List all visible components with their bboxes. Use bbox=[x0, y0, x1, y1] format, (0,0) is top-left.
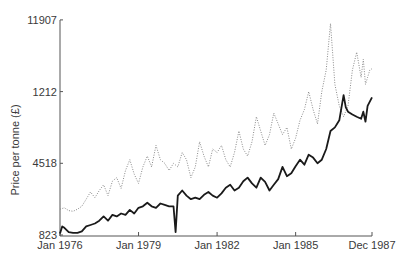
solid-price-line bbox=[60, 95, 372, 233]
y-axis-label: Price per tonne (£) bbox=[9, 104, 21, 195]
dotted-price-line bbox=[60, 24, 372, 212]
line-chart: 8234518121211907 Jan 1976Jan 1979Jan 198… bbox=[0, 0, 402, 261]
x-tick-label: Jan 1985 bbox=[273, 239, 318, 251]
x-tick-label: Jan 1982 bbox=[194, 239, 239, 251]
y-tick-label: 1212 bbox=[33, 86, 57, 98]
x-tick-label: Dec 1987 bbox=[348, 239, 395, 251]
series-group bbox=[60, 24, 372, 234]
x-tick-label: Jan 1976 bbox=[37, 239, 82, 251]
x-tick-label: Jan 1979 bbox=[116, 239, 161, 251]
y-tick-label: 4518 bbox=[33, 157, 57, 169]
y-tick-label: 11907 bbox=[27, 14, 57, 26]
y-axis: 8234518121211907 bbox=[27, 14, 63, 241]
x-axis: Jan 1976Jan 1979Jan 1982Jan 1985Dec 1987 bbox=[37, 232, 395, 251]
